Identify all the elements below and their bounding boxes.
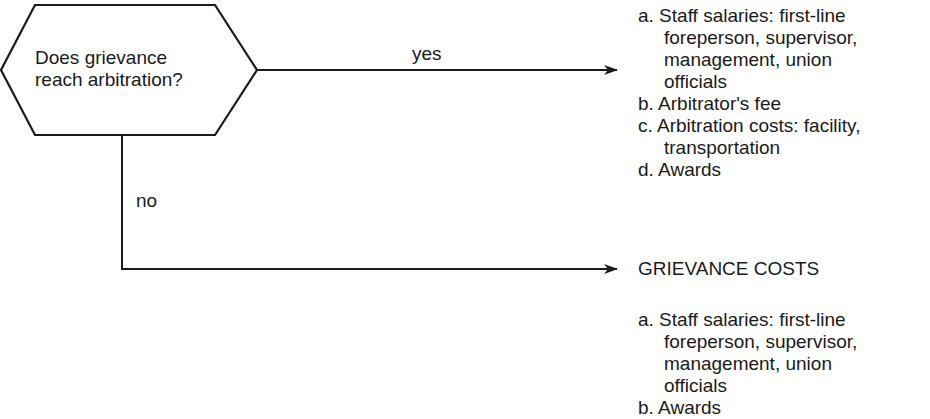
arbitration-item-a-cont: management, union (638, 49, 860, 71)
arbitration-item-a-cont: officials (638, 71, 860, 93)
grievance-item-a-cont: management, union (638, 353, 857, 375)
decision-question: Does grievance reach arbitration? (35, 47, 183, 91)
no-label: no (136, 190, 157, 212)
no-arrow (122, 135, 617, 269)
arbitration-item-c: c. Arbitration costs: facility, (638, 115, 860, 137)
grievance-item-a-cont: foreperson, supervisor, (638, 331, 857, 353)
yes-label: yes (412, 43, 442, 65)
decision-line-1: Does grievance (35, 47, 183, 69)
grievance-item-a: a. Staff salaries: first-line (638, 309, 857, 331)
grievance-costs-heading: GRIEVANCE COSTS (638, 258, 819, 280)
arbitration-item-b: b. Arbitrator's fee (638, 93, 860, 115)
arbitration-costs-list: a. Staff salaries: first-line foreperson… (638, 5, 860, 181)
arbitration-item-a: a. Staff salaries: first-line (638, 5, 860, 27)
arbitration-item-c-cont: transportation (638, 137, 860, 159)
arbitration-item-d: d. Awards (638, 159, 860, 181)
grievance-item-b: b. Awards (638, 397, 857, 419)
grievance-costs-list: a. Staff salaries: first-line foreperson… (638, 309, 857, 419)
arbitration-item-a-cont: foreperson, supervisor, (638, 27, 860, 49)
decision-line-2: reach arbitration? (35, 69, 183, 91)
grievance-item-a-cont: officials (638, 375, 857, 397)
